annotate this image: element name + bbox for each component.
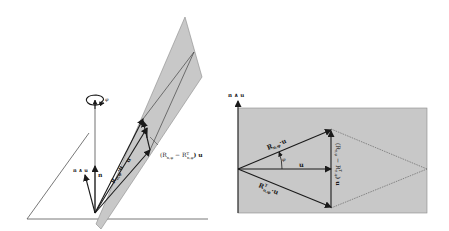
ground-diagonal-line (27, 133, 89, 219)
rotation-plane (96, 17, 202, 229)
n-label: n (98, 171, 103, 178)
right-panel: n ∧ u φ Rn,φ·u u RTn,φ·u (Rn,φ − RTn,φ) … (228, 92, 427, 213)
phi-label: φ (105, 96, 109, 103)
n-wedge-u-vector (85, 175, 95, 213)
rotation-figure: φ n ∧ u n Rn,φ·u u (Rn,φ − RTn,φ) u n ∧ … (0, 0, 449, 231)
u-label: u (299, 161, 304, 169)
left-panel: φ n ∧ u n Rn,φ·u u (Rn,φ − RTn,φ) u (27, 17, 208, 229)
diff-label: (Rn,φ − RTn,φ) u (160, 151, 203, 160)
plane-rect (238, 108, 427, 213)
n-wedge-u-label: n ∧ u (73, 167, 88, 173)
phi-label: φ (282, 156, 286, 163)
n-wedge-u-axis-label: n ∧ u (228, 92, 244, 98)
